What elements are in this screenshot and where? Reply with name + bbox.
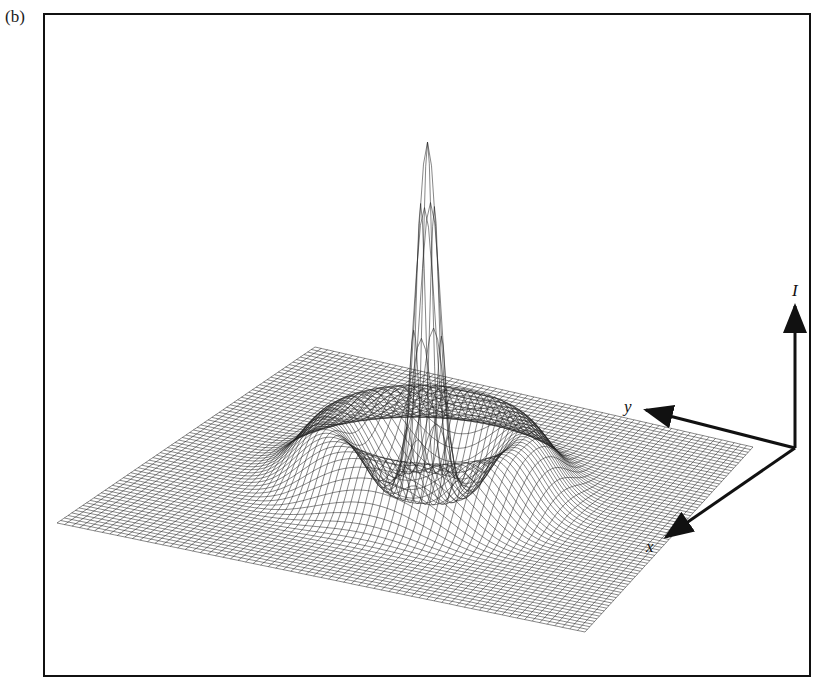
y-axis-label: y <box>622 397 632 416</box>
axis-triad: I y x <box>622 281 799 556</box>
y-axis-arrow <box>646 410 795 448</box>
i-axis-label: I <box>791 281 799 300</box>
x-axis-label: x <box>645 537 654 556</box>
wireframe-mesh <box>57 142 753 632</box>
surface-plot: I y x <box>0 0 825 685</box>
mesh-lines <box>57 142 753 632</box>
